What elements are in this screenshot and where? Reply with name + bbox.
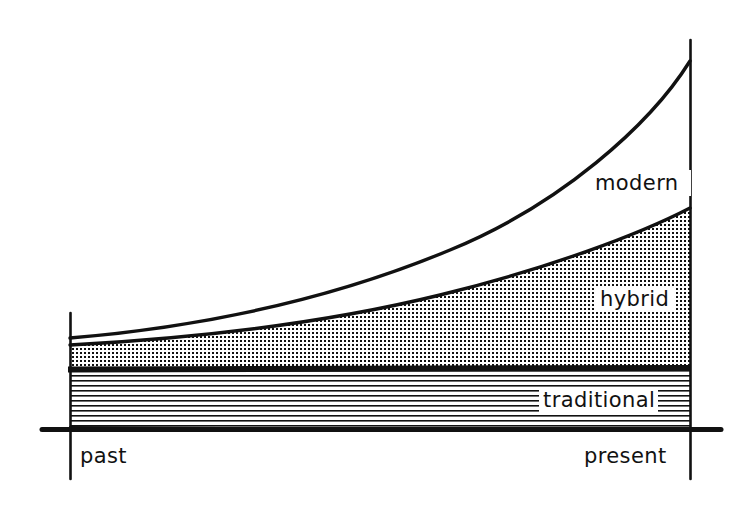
- label-traditional: traditional: [539, 387, 658, 413]
- axis-label-present: present: [584, 444, 667, 468]
- axis-label-past: past: [80, 444, 127, 468]
- label-modern-text: modern: [595, 171, 679, 195]
- diagram-canvas: modern hybrid traditional past present: [0, 0, 755, 508]
- label-traditional-text: traditional: [543, 388, 655, 412]
- curve-traditional-top: [68, 368, 691, 370]
- label-modern: modern: [591, 170, 691, 196]
- diagram-svg: modern hybrid traditional past present: [0, 0, 755, 508]
- label-hybrid: hybrid: [596, 286, 674, 312]
- label-hybrid-text: hybrid: [600, 287, 669, 311]
